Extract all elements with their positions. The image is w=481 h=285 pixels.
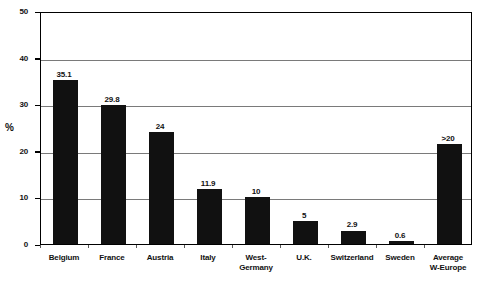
y-axis-title: % bbox=[5, 122, 14, 133]
bar-value-label: 29.8 bbox=[88, 95, 136, 104]
x-tick bbox=[376, 245, 377, 248]
y-tick-label-20: 20 bbox=[6, 147, 28, 156]
y-tick-label-30: 30 bbox=[6, 100, 28, 109]
bar-value-label: 2.9 bbox=[328, 220, 376, 229]
bar-value-label: 0.6 bbox=[376, 231, 424, 240]
x-tick bbox=[424, 245, 425, 248]
x-tick bbox=[232, 245, 233, 248]
bar-belgium bbox=[53, 80, 78, 244]
bar-value-label: >20 bbox=[424, 134, 472, 143]
bar-italy bbox=[197, 189, 222, 244]
bar-france bbox=[101, 105, 126, 244]
bar-value-label: 5 bbox=[280, 211, 328, 220]
x-tick bbox=[184, 245, 185, 248]
bar-austria bbox=[149, 132, 174, 244]
y-tick-label-50: 50 bbox=[6, 7, 28, 16]
bar-value-label: 11.9 bbox=[184, 179, 232, 188]
bar-switzerland bbox=[341, 231, 366, 245]
x-tick bbox=[280, 245, 281, 248]
x-tick bbox=[136, 245, 137, 248]
plot-area bbox=[40, 12, 472, 245]
bar-value-label: 35.1 bbox=[40, 70, 88, 79]
bar-chart: % 01020304050 35.129.82411.91052.90.6>20… bbox=[0, 0, 481, 285]
bar-u-k- bbox=[293, 221, 318, 244]
bar-value-label: 10 bbox=[232, 187, 280, 196]
y-tick-label-0: 0 bbox=[6, 240, 28, 249]
bar-sweden bbox=[389, 241, 414, 244]
bar-west--germany bbox=[245, 197, 270, 244]
x-tick bbox=[40, 245, 41, 248]
x-tick bbox=[328, 245, 329, 248]
y-tick-label-40: 40 bbox=[6, 54, 28, 63]
x-axis-label: Average W-Europe bbox=[418, 253, 478, 272]
bar-value-label: 24 bbox=[136, 122, 184, 131]
y-tick-label-10: 10 bbox=[6, 193, 28, 202]
x-tick bbox=[88, 245, 89, 248]
gridline-40 bbox=[41, 60, 471, 61]
bar-average-w-europe bbox=[437, 144, 462, 244]
